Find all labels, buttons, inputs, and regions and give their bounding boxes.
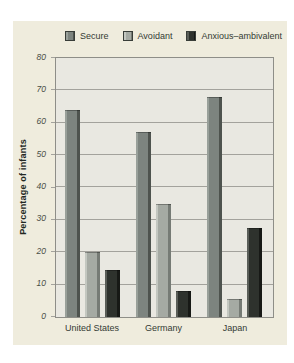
bar-secure (136, 132, 151, 317)
y-tick-label: 50 (20, 149, 46, 160)
legend-label: Avoidant (138, 31, 173, 41)
y-tick-label: 30 (20, 213, 46, 224)
x-axis-category-label: United States (64, 323, 120, 333)
legend-item: Anxious–ambivalent (186, 31, 282, 41)
y-tick-label: 70 (20, 84, 46, 95)
bar-anxious-ambivalent (176, 291, 191, 317)
bar-group (65, 110, 120, 317)
y-tick-label: 80 (20, 52, 46, 63)
legend-swatch-icon (65, 31, 75, 41)
legend-swatch-icon (123, 31, 133, 41)
x-axis-labels: United StatesGermanyJapan (55, 323, 274, 333)
legend-label: Anxious–ambivalent (201, 31, 282, 41)
bar-avoidant (85, 252, 100, 317)
plot-area (55, 57, 274, 318)
chart-legend: SecureAvoidantAnxious–ambivalent (65, 29, 282, 43)
bar-avoidant (156, 204, 171, 317)
y-tick-label: 40 (20, 181, 46, 192)
x-axis-category-label: Japan (207, 323, 263, 333)
bar-group (136, 132, 191, 317)
y-tick-label: 20 (20, 246, 46, 257)
y-tick-label: 60 (20, 116, 46, 127)
figure-panel: SecureAvoidantAnxious–ambivalent Percent… (13, 21, 287, 345)
legend-item: Secure (65, 31, 109, 41)
y-tick-label: 0 (20, 311, 46, 322)
bar-groups (56, 58, 273, 317)
bar-avoidant (227, 299, 242, 317)
legend-label: Secure (80, 31, 109, 41)
bar-secure (207, 97, 222, 317)
bar-anxious-ambivalent (247, 228, 262, 317)
legend-item: Avoidant (123, 31, 173, 41)
x-axis-category-label: Germany (136, 323, 192, 333)
legend-swatch-icon (186, 31, 196, 41)
bar-secure (65, 110, 80, 317)
y-tick-label: 10 (20, 278, 46, 289)
bar-anxious-ambivalent (105, 270, 120, 317)
bar-group (207, 97, 262, 317)
